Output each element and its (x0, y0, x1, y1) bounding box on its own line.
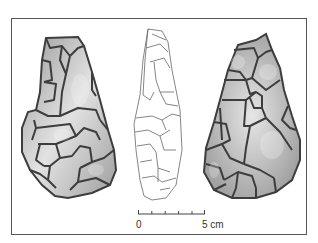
scale-end-label: 5 cm (202, 220, 224, 230)
hand-axe-face-b (204, 34, 300, 198)
hand-axe-face-a (22, 37, 116, 198)
scale-bar (138, 210, 205, 214)
hand-axe-illustration (0, 0, 318, 243)
scale-start-label: 0 (136, 220, 142, 230)
hand-axe-profile (134, 29, 182, 200)
